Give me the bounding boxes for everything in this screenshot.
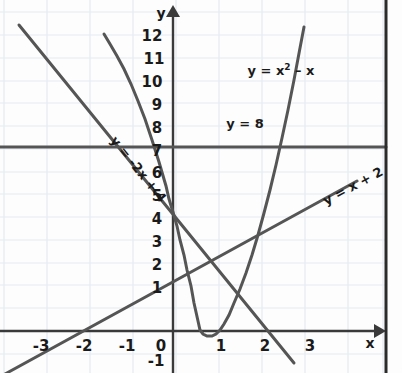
y-axis-label: y	[156, 5, 165, 21]
label-parabola-base: y = x	[247, 63, 284, 78]
x-tick-3: 3	[305, 337, 315, 355]
y-tick-2: 2	[152, 256, 162, 274]
y-tick-4: 4	[152, 210, 162, 228]
y-tick-3: 3	[152, 233, 162, 251]
x-tick-1: 1	[216, 337, 226, 355]
y-tick-12: 12	[142, 27, 163, 45]
y-tick-9: 9	[152, 96, 162, 114]
x-tick-neg1: -1	[119, 337, 136, 355]
x-tick-neg2: -2	[76, 337, 93, 355]
y-tick-7: 7	[152, 142, 162, 160]
y-tick-1: 1	[152, 279, 162, 297]
y-tick-8: 8	[152, 119, 162, 137]
x-axis-label: x	[365, 335, 374, 351]
x-tick-2: 2	[260, 337, 270, 355]
x-tick-neg3: -3	[33, 337, 50, 355]
x-tick-origin: 0	[156, 337, 166, 355]
coordinate-plane: 12 11 10 9 8 7 6 5 4 3 2 1 -1 -3 -2 -1 0…	[0, 0, 402, 373]
y-tick-11: 11	[144, 50, 165, 68]
label-horizontal-y8: y = 8	[226, 116, 263, 131]
label-parabola: y = x2 – x	[247, 62, 315, 78]
graph-figure: 12 11 10 9 8 7 6 5 4 3 2 1 -1 -3 -2 -1 0…	[0, 0, 402, 373]
y-tick-10: 10	[142, 73, 163, 91]
label-parabola-tail: – x	[291, 63, 316, 78]
